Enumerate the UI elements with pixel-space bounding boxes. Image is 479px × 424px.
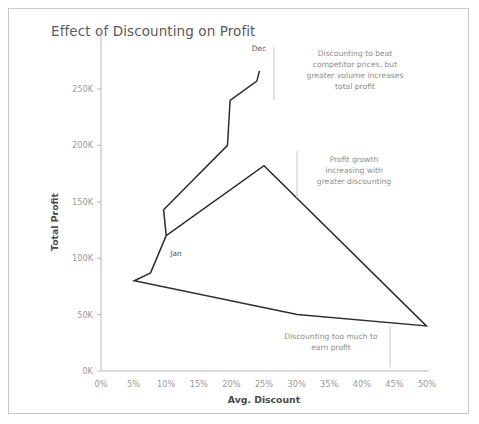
annotation-line: Discounting too much to: [284, 332, 378, 341]
annotation-line: increasing with: [325, 166, 383, 175]
annotation-line: Profit growth: [330, 155, 379, 164]
x-tick-label: 45%: [385, 379, 403, 389]
y-tick-label: 200K: [72, 140, 94, 150]
annotation-profit-growth: Profit growth increasing with greater di…: [297, 151, 391, 198]
annotation-line: earn profit: [311, 343, 351, 352]
data-point-label-jan: Jan: [169, 249, 182, 258]
y-tick-label: 150K: [72, 197, 94, 207]
y-axis-title: Total Profit: [49, 193, 60, 251]
y-tick-label: 0K: [82, 366, 93, 376]
annotation-too-much-discount: Discounting too much to earn profit: [284, 327, 390, 367]
series-line-profit-loop: [134, 166, 426, 326]
x-tick-label: 20%: [222, 379, 240, 389]
x-axis-title: Avg. Discount: [228, 394, 301, 405]
x-tick-label: 15%: [190, 379, 208, 389]
x-tick-label: 40%: [353, 379, 371, 389]
x-axis-tick-labels: 0% 5% 10% 15% 20% 25% 30% 35% 40% 45% 50…: [95, 379, 437, 389]
x-tick-label: 50%: [418, 379, 436, 389]
x-tick-label: 30%: [287, 379, 305, 389]
x-tick-label: 0%: [95, 379, 108, 389]
x-tick-label: 35%: [320, 379, 338, 389]
x-tick-label: 10%: [157, 379, 175, 389]
x-tick-label: 5%: [127, 379, 140, 389]
annotation-line: competitor prices, but: [313, 60, 397, 69]
annotation-line: greater volume increases: [307, 71, 404, 80]
y-tick-label: 100K: [72, 253, 94, 263]
annotation-line: Discounting to beat: [318, 49, 393, 58]
data-point-label-dec: Dec: [252, 44, 266, 53]
y-axis-tick-labels: 0K 50K 100K 150K 200K 250K: [72, 84, 94, 376]
y-axis-ticks: [97, 89, 101, 371]
series-line-jan-to-dec: [164, 71, 260, 236]
annotation-discount-beat-competitor: Discounting to beat competitor prices, b…: [274, 47, 403, 100]
annotation-line: greater discounting: [317, 177, 392, 186]
x-tick-label: 25%: [255, 379, 273, 389]
chart-frame: Effect of Discounting on Profit 0K 50K 1…: [8, 8, 469, 414]
y-tick-label: 50K: [77, 310, 93, 320]
annotation-line: total profit: [335, 82, 375, 91]
y-tick-label: 250K: [72, 84, 94, 94]
chart-canvas: 0K 50K 100K 150K 200K 250K Total Profit …: [9, 9, 470, 415]
